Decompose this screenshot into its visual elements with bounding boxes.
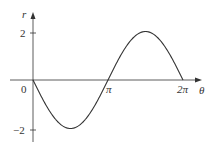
r-axis-label: r [22,8,27,20]
tick-label-2pi: 2π [177,83,189,95]
theta-axis-arrow-icon [195,78,202,83]
tick-label-neg2: −2 [13,124,25,136]
theta-axis-label: θ [199,84,205,96]
tick-label-pi: π [106,83,112,95]
r-axis-arrow-icon [31,12,36,19]
tick-label-2: 2 [20,27,26,39]
polar-function-graph: r 2 0 −2 π 2π θ [0,0,213,154]
origin-label: 0 [21,83,27,95]
